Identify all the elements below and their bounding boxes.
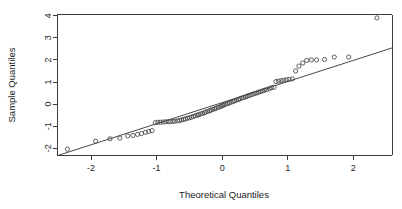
qq-plot-canvas: -2-1012 -2-101234 Theoretical Quantiles … <box>0 0 402 209</box>
y-axis-title: Sample Quantiles <box>6 47 17 122</box>
y-tick-label: 1 <box>43 79 53 84</box>
x-axis-title: Theoretical Quantiles <box>179 189 269 200</box>
y-tick-label: 3 <box>43 35 53 40</box>
x-tick-label: 0 <box>220 163 225 173</box>
y-tick-label: 0 <box>43 102 53 107</box>
y-tick-label: 2 <box>43 57 53 62</box>
qq-plot-figure: -2-1012 -2-101234 Theoretical Quantiles … <box>0 0 402 209</box>
y-tick-label: -2 <box>43 144 53 152</box>
x-tick-label: -1 <box>153 163 161 173</box>
x-tick-label: 2 <box>351 163 356 173</box>
x-tick-label: -2 <box>87 163 95 173</box>
plot-background <box>0 0 402 209</box>
x-tick-label: 1 <box>285 163 290 173</box>
y-tick-label: -1 <box>43 122 53 130</box>
y-tick-label: 4 <box>43 13 53 18</box>
